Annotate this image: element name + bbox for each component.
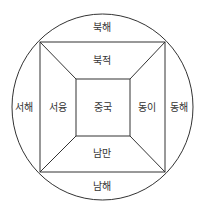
label-west-sea: 서해: [15, 103, 33, 113]
label-center: 중국: [94, 103, 112, 113]
label-east-sea: 동해: [170, 103, 188, 113]
diagonal-top-right: [130, 42, 165, 79]
diagonal-bottom-right: [130, 136, 165, 172]
label-east-barbarians: 동이: [138, 103, 156, 113]
label-north-sea: 북해: [93, 23, 111, 33]
label-west-barbarians: 서융: [49, 103, 67, 113]
label-north-barbarians: 북적: [93, 56, 111, 66]
label-south-sea: 남해: [93, 182, 111, 192]
diagonal-bottom-left: [40, 136, 76, 172]
diagonal-top-left: [40, 42, 76, 79]
label-south-barbarians: 남만: [93, 149, 111, 159]
